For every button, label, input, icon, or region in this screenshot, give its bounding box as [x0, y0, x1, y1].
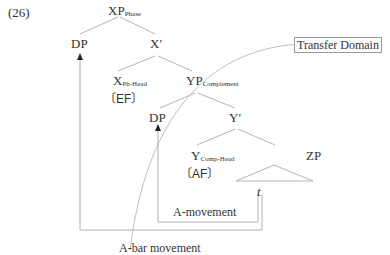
node-subscript: Ph-Head [122, 80, 147, 88]
node-subscript: Comp-Head [200, 155, 234, 163]
trace-t: t [257, 185, 261, 198]
node-dp-inner: DP [149, 111, 166, 124]
node-label: XP [108, 3, 125, 18]
node-x-bar: X′ [150, 37, 162, 50]
node-x-phase-head: XPh-Head [113, 74, 147, 87]
example-number: (26) [8, 6, 30, 19]
node-y-comp-head: YComp-Head [191, 149, 235, 162]
node-label: Y [191, 148, 200, 163]
node-subscript: Complement [203, 80, 239, 88]
transfer-domain-label: Transfer Domain [294, 37, 382, 53]
node-y-bar: Y′ [229, 111, 241, 124]
node-dp-specifier: DP [71, 37, 88, 50]
node-label: YP [186, 73, 203, 88]
node-subscript: Phase [125, 10, 141, 18]
node-zp: ZP [306, 149, 321, 162]
node-label: X [113, 73, 122, 88]
node-xp-phase: XPPhase [108, 4, 141, 17]
feature-af: 〔AF〕 [180, 168, 219, 180]
a-movement-label: A-movement [173, 206, 236, 218]
node-yp-complement: YPComplement [186, 74, 239, 87]
feature-ef: 〔EF〕 [104, 93, 143, 105]
a-bar-movement-label: A-bar movement [119, 242, 201, 254]
